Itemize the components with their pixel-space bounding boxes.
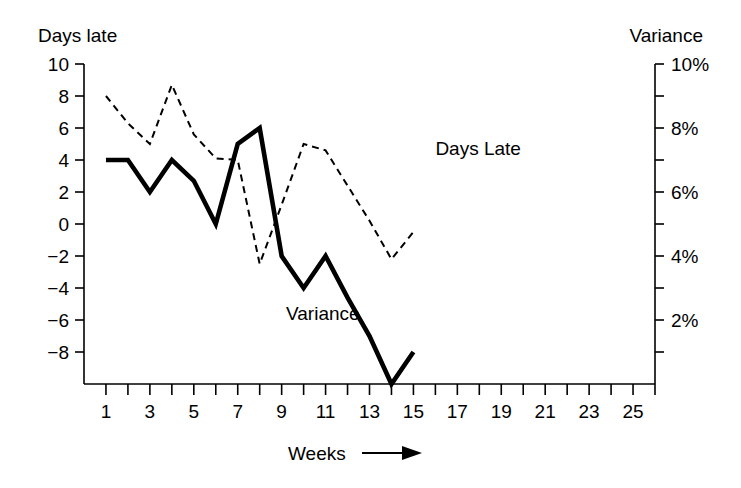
left-tick-label: 0 [58,214,69,235]
series-days-late-line [106,85,413,264]
x-axis-ticks [106,384,655,395]
left-tick-label: 4 [58,150,69,171]
x-tick-label: 25 [622,401,643,422]
right-axis-tick-labels: 10%8%6%4%2% [671,54,709,331]
right-tick-label: 2% [671,310,699,331]
right-axis-title: Variance [629,25,703,46]
left-tick-label: 2 [58,182,69,203]
left-axis-tick-labels: 1086420−2−4−6−8 [47,54,69,363]
x-tick-label: 11 [316,401,336,422]
x-tick-label: 1 [101,401,112,422]
left-tick-label: 10 [48,54,69,75]
right-tick-label: 6% [671,182,699,203]
x-tick-label: 13 [359,401,380,422]
x-tick-label: 21 [535,401,556,422]
series-variance-line [106,128,413,384]
right-tick-label: 8% [671,118,699,139]
left-tick-label: −2 [47,246,69,267]
x-axis-tick-labels: 135791113151719212325 [101,401,644,422]
x-tick-label: 15 [403,401,424,422]
series-label-variance: Variance [286,303,360,324]
x-axis-title: Weeks [288,443,346,464]
chart-container: Days late Variance 1086420−2−4−6−8 10%8%… [0,0,741,488]
x-tick-label: 17 [447,401,468,422]
x-tick-label: 7 [232,401,243,422]
left-tick-label: −4 [47,278,69,299]
weeks-arrow-icon [362,446,422,460]
x-tick-label: 9 [276,401,287,422]
right-tick-label: 10% [671,54,709,75]
line-chart: Days late Variance 1086420−2−4−6−8 10%8%… [0,0,741,488]
right-tick-label: 4% [671,246,699,267]
left-axis-ticks [75,64,84,352]
x-tick-label: 19 [491,401,512,422]
left-tick-label: 8 [58,86,69,107]
left-tick-label: −8 [47,342,69,363]
series-label-days-late: Days Late [435,138,521,159]
x-tick-label: 3 [145,401,156,422]
right-axis-ticks [655,64,664,352]
left-tick-label: −6 [47,310,69,331]
left-tick-label: 6 [58,118,69,139]
left-axis-title: Days late [38,25,117,46]
x-tick-label: 23 [579,401,600,422]
x-tick-label: 5 [189,401,200,422]
